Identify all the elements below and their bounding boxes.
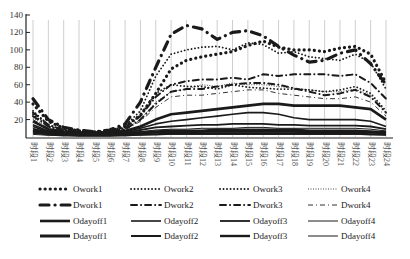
- legend-label: Ddayoff3: [253, 231, 288, 241]
- legend-item-odayoff1: Odayoff1: [40, 216, 107, 226]
- y-tick-label: 40: [14, 97, 24, 107]
- x-tick-label: 时段19: [305, 142, 315, 166]
- legend-item-dwork2: Dwork2: [131, 200, 194, 210]
- legend-label: Odayoff4: [341, 216, 376, 226]
- legend-item-ddayoff2: Ddayoff2: [131, 231, 198, 241]
- x-tick-label: 时段5: [91, 142, 101, 162]
- y-tick-label: 120: [10, 27, 24, 37]
- legend-label: Dwork1: [73, 200, 103, 210]
- y-tick-label: 20: [14, 115, 24, 125]
- legend-item-owork4: Owork4: [308, 184, 371, 194]
- x-tick-label: 时段4: [75, 142, 85, 162]
- x-tick-label: 时段16: [259, 142, 269, 166]
- x-tick-label: 时段17: [275, 142, 285, 166]
- series-lines: [33, 26, 386, 137]
- legend-item-ddayoff3: Ddayoff3: [220, 231, 288, 241]
- legend-label: Owork1: [73, 184, 103, 194]
- y-tick-label: 140: [10, 10, 24, 20]
- x-tick-label: 时段7: [121, 142, 131, 162]
- x-tick-label: 时段8: [137, 142, 147, 162]
- x-axis-labels: 时段1时段2时段3时段4时段5时段6时段7时段8时段9时段10时段11时段12时…: [29, 142, 392, 166]
- legend-label: Odayoff1: [73, 216, 107, 226]
- legend-label: Dwork2: [164, 200, 194, 210]
- x-tick-label: 时段22: [351, 142, 361, 166]
- x-tick-label: 时段2: [45, 142, 55, 162]
- legend-item-odayoff3: Odayoff3: [220, 216, 288, 226]
- legend-label: Ddayoff2: [164, 231, 198, 241]
- legend-item-dwork4: Dwork4: [308, 200, 371, 210]
- legend-label: Odayoff3: [253, 216, 288, 226]
- y-axis-ticks: 20406080100120140: [10, 10, 31, 125]
- x-tick-label: 时段12: [198, 142, 208, 166]
- legend: Owork1Owork2Owork3Owork4Dwork1Dwork2Dwor…: [40, 184, 376, 241]
- x-tick-label: 时段18: [290, 142, 300, 166]
- y-tick-label: 80: [14, 62, 24, 72]
- legend-label: Odayoff2: [164, 216, 198, 226]
- legend-label: Dwork3: [253, 200, 283, 210]
- y-tick-label: 100: [10, 45, 24, 55]
- legend-item-odayoff4: Odayoff4: [308, 216, 376, 226]
- x-tick-label: 时段6: [106, 142, 116, 162]
- legend-item-owork2: Owork2: [131, 184, 194, 194]
- x-tick-label: 时段13: [213, 142, 223, 166]
- y-tick-label: 60: [14, 80, 24, 90]
- x-tick-label: 时段24: [382, 142, 392, 166]
- x-tick-label: 时段9: [152, 142, 162, 162]
- legend-label: Owork3: [253, 184, 283, 194]
- legend-item-owork3: Owork3: [220, 184, 283, 194]
- legend-item-owork1: Owork1: [40, 184, 103, 194]
- legend-item-ddayoff4: Ddayoff4: [308, 231, 376, 241]
- x-tick-label: 时段3: [60, 142, 70, 162]
- series-dwork2: [33, 74, 386, 132]
- x-tick-label: 时段1: [29, 142, 39, 162]
- legend-item-ddayoff1: Ddayoff1: [40, 231, 107, 241]
- x-tick-label: 时段14: [229, 142, 239, 166]
- legend-label: Owork2: [164, 184, 194, 194]
- x-tick-label: 时段21: [336, 142, 346, 166]
- x-tick-label: 时段10: [167, 142, 177, 166]
- line-chart: 20406080100120140 时段1时段2时段3时段4时段5时段6时段7时…: [0, 0, 410, 259]
- legend-label: Owork4: [341, 184, 371, 194]
- legend-label: Ddayoff4: [341, 231, 376, 241]
- legend-label: Ddayoff1: [73, 231, 107, 241]
- legend-item-dwork1: Dwork1: [40, 200, 103, 210]
- x-tick-label: 时段15: [244, 142, 254, 166]
- x-tick-label: 时段11: [183, 142, 193, 166]
- legend-item-dwork3: Dwork3: [220, 200, 283, 210]
- x-tick-label: 时段23: [367, 142, 377, 166]
- x-tick-label: 时段20: [321, 142, 331, 166]
- legend-item-odayoff2: Odayoff2: [131, 216, 198, 226]
- legend-label: Dwork4: [341, 200, 371, 210]
